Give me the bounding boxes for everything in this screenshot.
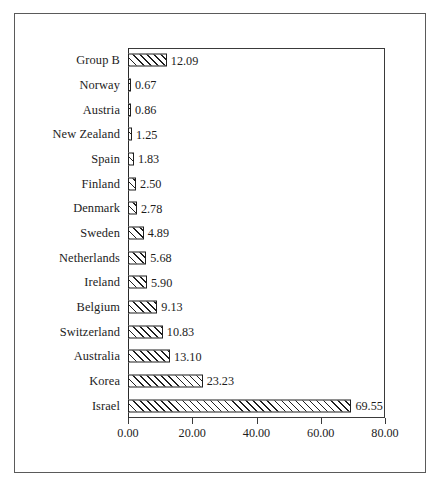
- bar-and-value: 2.50: [128, 177, 161, 190]
- bar-row: Group B12.09: [0, 48, 443, 73]
- bar-value-label: 12.09: [167, 54, 198, 66]
- bar-and-value: 5.90: [128, 276, 172, 289]
- x-axis-tick: [128, 418, 129, 424]
- bar-and-value: 12.09: [128, 54, 198, 67]
- bar: [128, 325, 163, 338]
- bar-row: Austria0.86: [0, 97, 443, 122]
- x-axis-tick-label: 40.00: [243, 427, 270, 439]
- bar-and-value: 5.68: [128, 251, 172, 264]
- category-label: Australia: [74, 350, 120, 362]
- bar-value-label: 2.78: [137, 202, 162, 214]
- category-label: Spain: [91, 153, 120, 165]
- bar: [128, 300, 157, 313]
- bar: [128, 374, 203, 387]
- bar: [128, 399, 351, 412]
- category-label: Finland: [81, 177, 120, 189]
- bar-row: New Zealand1.25: [0, 122, 443, 147]
- bar-and-value: 69.55: [128, 399, 383, 412]
- bar: [128, 226, 144, 239]
- bar: [128, 177, 136, 190]
- bar-row: Sweden4.89: [0, 221, 443, 246]
- category-label: Israel: [92, 399, 120, 411]
- bar: [128, 350, 170, 363]
- horizontal-bar-chart: Group B12.09Norway0.67Austria0.86New Zea…: [0, 0, 443, 488]
- bar-and-value: 1.25: [128, 128, 157, 141]
- bar-and-value: 4.89: [128, 226, 169, 239]
- bar-and-value: 23.23: [128, 374, 234, 387]
- bar: [128, 276, 147, 289]
- x-axis-tick: [257, 418, 258, 424]
- bar-value-label: 69.55: [351, 400, 382, 412]
- bar-row: Netherlands5.68: [0, 245, 443, 270]
- bar: [128, 54, 167, 67]
- x-axis-tick-label: 60.00: [307, 427, 334, 439]
- bar-and-value: 0.86: [128, 103, 156, 116]
- bar: [128, 202, 137, 215]
- x-axis-tick: [192, 418, 193, 424]
- bar-row: Norway0.67: [0, 73, 443, 98]
- bar-value-label: 23.23: [203, 375, 234, 387]
- category-label: Norway: [79, 79, 120, 91]
- x-axis-tick: [385, 418, 386, 424]
- bar-value-label: 5.90: [147, 276, 172, 288]
- category-label: Group B: [76, 54, 120, 66]
- x-axis-tick-label: 20.00: [179, 427, 206, 439]
- bar-and-value: 10.83: [128, 325, 194, 338]
- category-label: Korea: [89, 375, 120, 387]
- bar-and-value: 2.78: [128, 202, 162, 215]
- bar-row: Belgium9.13: [0, 295, 443, 320]
- bar-row: Finland2.50: [0, 171, 443, 196]
- bar: [128, 251, 146, 264]
- bar-row: Switzerland10.83: [0, 319, 443, 344]
- bar-value-label: 1.25: [132, 128, 157, 140]
- bar-value-label: 4.89: [144, 227, 169, 239]
- category-label: Sweden: [80, 227, 120, 239]
- bar-value-label: 9.13: [157, 301, 182, 313]
- bar-value-label: 0.86: [131, 104, 156, 116]
- x-axis-tick-label: 80.00: [371, 427, 398, 439]
- x-axis-tick: [321, 418, 322, 424]
- bar-row: Australia13.10: [0, 344, 443, 369]
- bar-row: Denmark2.78: [0, 196, 443, 221]
- bar-row: Korea23.23: [0, 369, 443, 394]
- bar-and-value: 0.67: [128, 78, 156, 91]
- bar-row: Ireland5.90: [0, 270, 443, 295]
- category-label: New Zealand: [53, 128, 121, 140]
- bar-value-label: 2.50: [136, 178, 161, 190]
- bar-row: Spain1.83: [0, 147, 443, 172]
- category-label: Netherlands: [59, 251, 120, 263]
- bar-row: Israel69.55: [0, 393, 443, 418]
- bar-and-value: 9.13: [128, 300, 183, 313]
- bar-value-label: 5.68: [146, 252, 171, 264]
- category-label: Austria: [83, 103, 120, 115]
- bar-value-label: 0.67: [131, 79, 156, 91]
- category-label: Ireland: [84, 276, 120, 288]
- bar-and-value: 1.83: [128, 152, 159, 165]
- bar-value-label: 13.10: [170, 350, 201, 362]
- bar-value-label: 1.83: [134, 153, 159, 165]
- bar-value-label: 10.83: [163, 326, 194, 338]
- bar-and-value: 13.10: [128, 350, 202, 363]
- category-label: Switzerland: [60, 325, 120, 337]
- category-label: Denmark: [73, 202, 120, 214]
- x-axis-tick-label: 0.00: [117, 427, 138, 439]
- category-label: Belgium: [77, 301, 120, 313]
